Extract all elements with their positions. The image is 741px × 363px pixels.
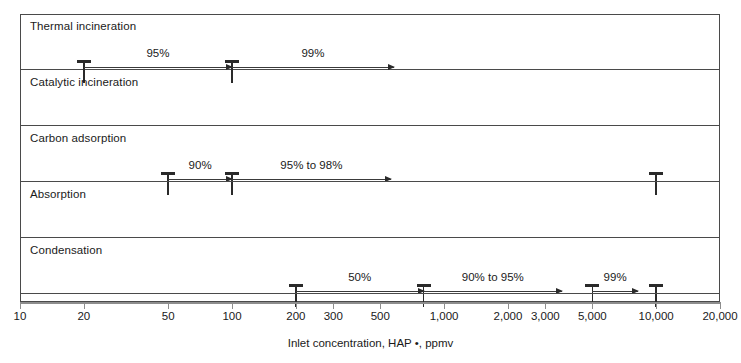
axis-tick [380, 302, 381, 309]
row-label-catalytic-incineration: Catalytic incineration [30, 76, 138, 88]
axis-tick [656, 302, 657, 309]
arrow-shaft [232, 67, 394, 68]
technology-row: Catalytic incineration90%95% to 98% [20, 70, 720, 126]
row-label-carbon-adsorption: Carbon adsorption [30, 132, 126, 144]
axis-tick-label: 1,000 [430, 310, 459, 322]
axis-tick-label: 10 [14, 310, 27, 322]
axis-tick-label: 10,000 [639, 310, 674, 322]
technology-row: Thermal incineration95%99% [20, 14, 720, 70]
axis-tick [592, 302, 593, 309]
axis-tick-label: 50 [162, 310, 175, 322]
axis-tick-label: 500 [371, 310, 390, 322]
axis-tick [508, 302, 509, 309]
efficiency-label: 95% [146, 47, 169, 59]
axis-tick-label: 300 [324, 310, 343, 322]
marker-cap [77, 60, 91, 63]
axis-tick [232, 302, 233, 309]
arrow-shaft [84, 67, 232, 68]
technology-row: Condensation50%80%95% [20, 238, 720, 294]
axis-tick-label: 20 [77, 310, 90, 322]
efficiency-label: 99% [301, 47, 324, 59]
technology-row: Carbon adsorption50%90% to 95%99% [20, 126, 720, 182]
x-axis-label: Inlet concentration, HAP •, ppmv [0, 337, 741, 349]
chart-page: Thermal incineration95%99%Catalytic inci… [0, 0, 741, 363]
axis-tick [168, 302, 169, 309]
axis-tick [720, 302, 721, 309]
axis-tick [296, 302, 297, 309]
technology-row: Absorption90%95%98% [20, 182, 720, 238]
row-label-thermal-incineration: Thermal incineration [30, 20, 136, 32]
axis-tick-label: 20,000 [702, 310, 737, 322]
axis-tick [444, 302, 445, 309]
row-label-absorption: Absorption [30, 188, 86, 200]
axis-tick [333, 302, 334, 309]
axis-tick-label: 2,000 [494, 310, 523, 322]
marker-cap [225, 60, 239, 63]
axis-tick-label: 200 [286, 310, 305, 322]
x-axis-line [20, 302, 720, 304]
axis-tick [20, 302, 21, 309]
arrow-head [388, 64, 395, 70]
axis-tick-label: 3,000 [531, 310, 560, 322]
row-label-condensation: Condensation [30, 244, 102, 256]
axis-tick-label: 5,000 [578, 310, 607, 322]
axis-tick [84, 302, 85, 309]
axis-tick-label: 100 [222, 310, 241, 322]
axis-tick [545, 302, 546, 309]
